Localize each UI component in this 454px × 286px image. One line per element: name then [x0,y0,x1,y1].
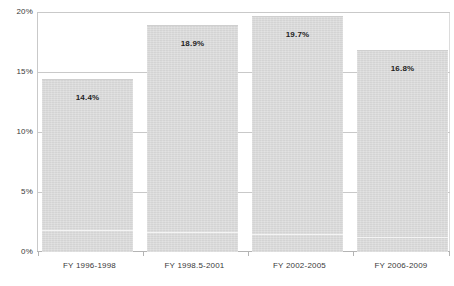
x-axis-tick [353,252,354,256]
bar-value-label: 14.4% [42,94,133,102]
bar-fy-2006-2009[interactable]: 16.8% [357,50,448,252]
bar-value-label: 18.9% [147,40,238,48]
gridline-20 [37,12,450,13]
x-tick-label-fy-1996-1998: FY 1996-1998 [37,261,142,270]
bar-fy-1996-1998[interactable]: 14.4% [42,79,133,252]
bar-chart: 20% 15% 10% 5% 0% 14.4% 18.9% 19.7% 16.8… [0,0,454,286]
y-tick-label-10: 10% [5,128,33,136]
y-tick-label-15: 15% [5,68,33,76]
bar-value-label: 16.8% [357,65,448,73]
x-axis-tick [38,252,39,256]
bar-inner-rule [42,230,133,231]
x-axis-tick [143,252,144,256]
x-tick-label-fy-2002-2005: FY 2002-2005 [247,261,352,270]
bar-inner-rule [147,232,238,233]
bar-value-label: 19.7% [252,31,343,39]
y-tick-label-5: 5% [5,188,33,196]
x-tick-label-fy-1998-5-2001: FY 1998.5-2001 [142,261,247,270]
y-tick-label-0: 0% [5,248,33,256]
bar-inner-rule [357,237,448,238]
bar-fy-1998-5-2001[interactable]: 18.9% [147,25,238,252]
x-axis-tick [449,252,450,256]
plot-area: 14.4% 18.9% 19.7% 16.8% [37,12,450,252]
bar-inner-rule [252,234,343,235]
x-tick-label-fy-2006-2009: FY 2006-2009 [350,261,452,270]
x-axis-tick [248,252,249,256]
bar-fy-2002-2005[interactable]: 19.7% [252,16,343,252]
y-tick-label-20: 20% [5,8,33,16]
